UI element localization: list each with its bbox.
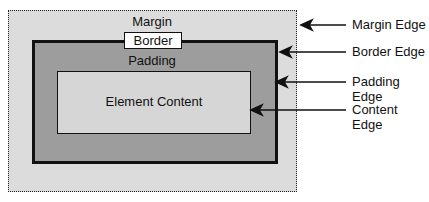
margin-edge-label: Margin Edge: [352, 17, 426, 32]
padding-edge-label: Padding Edge: [352, 74, 429, 104]
content-edge-label: Content Edge: [352, 102, 429, 132]
border-edge-label: Border Edge: [352, 44, 425, 59]
